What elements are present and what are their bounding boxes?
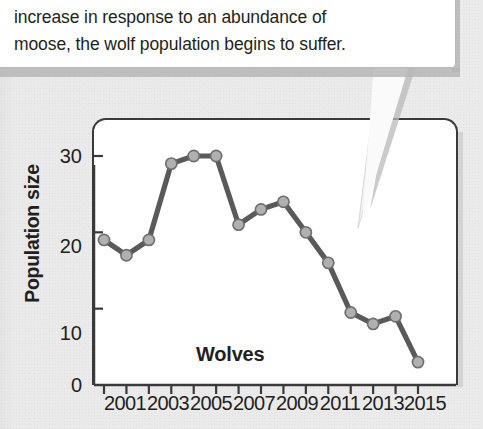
y-tick-label-0: 0 [42,374,82,397]
series-label-wolves: Wolves [196,343,264,366]
y-tick-label-30: 30 [42,145,82,168]
y-tick-label-20: 20 [42,235,82,258]
x-tick-label-2015: 2015 [395,392,455,415]
y-tick-label-10: 10 [42,322,82,345]
chart-plot-area [92,118,458,385]
y-axis-title: Population size [21,139,44,329]
callout-shadow [0,68,460,77]
callout-text: increase in response to an abundance of … [14,4,454,58]
